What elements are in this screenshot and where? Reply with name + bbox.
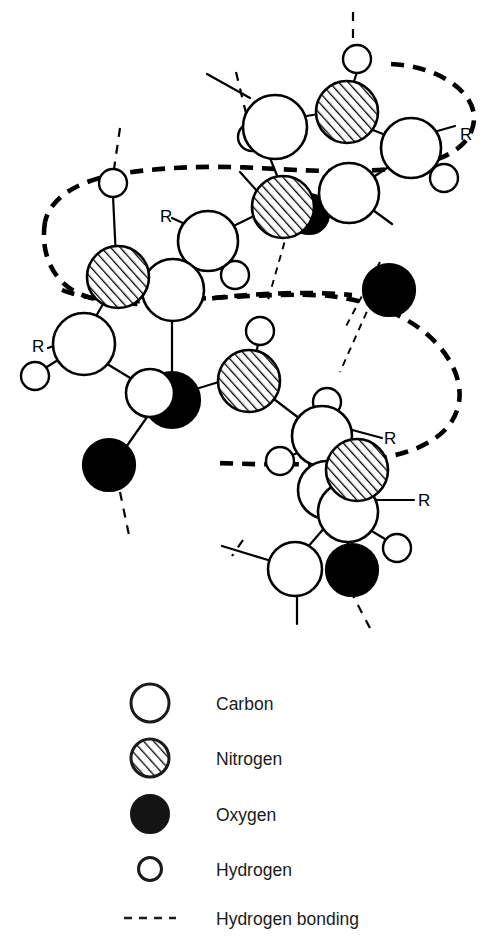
carbon-atom-icon [131, 684, 169, 722]
legend-row-nitrogen: Nitrogen [131, 739, 282, 777]
side-chain-label-r: R [32, 337, 44, 356]
atoms-group [21, 45, 458, 596]
hydrogen-bonds-group [268, 230, 380, 372]
carbon-atom-icon [243, 95, 307, 159]
hydrogen-atom-icon [343, 45, 371, 73]
legend-label-nitrogen: Nitrogen [216, 749, 282, 769]
side-chain-label-r: R [384, 429, 396, 448]
nitrogen-atom-icon [87, 246, 149, 308]
carbon-atom-icon [53, 313, 115, 375]
nitrogen-atom-icon [218, 350, 280, 412]
legend-label-hydrogen: Hydrogen [216, 860, 292, 880]
hydrogen-atom-icon [99, 169, 127, 197]
legend-label-hydrogen-bonding: Hydrogen bonding [216, 909, 359, 929]
carbon-atom-icon [319, 163, 379, 223]
hydrogen-atom-icon [246, 317, 274, 345]
oxygen-atom-icon [363, 264, 415, 316]
molecule-diagram: R R R R R [21, 12, 474, 632]
nitrogen-atom-icon [252, 176, 314, 238]
nitrogen-atom-icon [131, 739, 169, 777]
oxygen-atom-icon [131, 795, 169, 833]
side-chain-label-r: R [418, 491, 430, 510]
figure-root: R R R R R Carbon Nitrogen Oxygen [0, 0, 500, 947]
hydrogen-bond-3 [340, 300, 372, 372]
chain-stub-bottom-left [222, 546, 268, 560]
hydrogen-atom-icon [21, 362, 49, 390]
nitrogen-atom-icon [326, 439, 388, 501]
legend-label-carbon: Carbon [216, 694, 273, 714]
oxygen-atom-icon [83, 439, 135, 491]
hydrogen-atom-icon [383, 534, 411, 562]
bond-n2-h3 [240, 172, 258, 192]
carbon-atom-icon [268, 542, 322, 596]
chain-stub-top-left [207, 74, 250, 98]
hydrogen-atom-icon [139, 858, 162, 881]
alpha-helix-figure: R R R R R Carbon Nitrogen Oxygen [0, 0, 500, 947]
hydrogen-bond-1 [268, 230, 288, 300]
chain-dash-lower-left [120, 492, 130, 540]
carbon-atom-icon [142, 259, 204, 321]
side-chain-label-r: R [460, 125, 472, 144]
legend-row-hydrogen-bonding: Hydrogen bonding [124, 909, 359, 929]
legend-label-oxygen: Oxygen [216, 805, 276, 825]
legend: Carbon Nitrogen Oxygen Hydrogen Hydrogen… [124, 684, 359, 929]
legend-row-hydrogen: Hydrogen [139, 858, 292, 881]
carbon-atom-icon [126, 369, 174, 417]
legend-row-oxygen: Oxygen [131, 795, 276, 833]
side-chain-label-r: R [160, 207, 172, 226]
carbon-atom-icon [381, 118, 441, 178]
chain-dash-bottom-left [232, 540, 243, 556]
legend-row-carbon: Carbon [131, 684, 273, 722]
hydrogen-atom-icon [266, 447, 294, 475]
nitrogen-atom-icon [316, 81, 378, 143]
oxygen-atom-icon [326, 544, 378, 596]
